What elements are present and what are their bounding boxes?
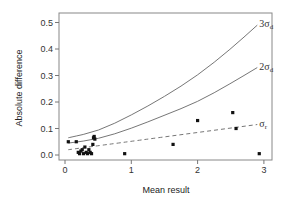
y-tick-label: 0.2 <box>40 97 53 107</box>
y-tick-label: 0.1 <box>40 124 53 134</box>
x-tick-label: 3 <box>261 165 266 175</box>
curve-label: σr <box>259 118 267 131</box>
data-point <box>123 152 126 155</box>
data-point <box>234 127 237 130</box>
data-point <box>91 143 94 146</box>
curve-3sigmad <box>68 25 257 138</box>
data-point <box>171 143 174 146</box>
plot-border <box>59 13 272 160</box>
x-tick-label: 0 <box>62 165 67 175</box>
data-point <box>196 119 199 122</box>
data-point <box>90 152 93 155</box>
y-tick-label: 0.0 <box>40 150 53 160</box>
y-tick-label: 0.5 <box>40 18 53 28</box>
x-axis: 0123 <box>62 160 266 175</box>
reference-curves: 3σd2σdσr <box>68 18 273 150</box>
data-point <box>93 138 96 141</box>
y-axis-title: Absolute difference <box>14 50 24 127</box>
y-tick-label: 0.4 <box>40 44 53 54</box>
data-point <box>258 152 261 155</box>
scatter-chart: 0.00.10.20.30.40.5 0123 3σd2σdσr Absolut… <box>0 0 288 200</box>
x-axis-title: Mean result <box>142 185 190 195</box>
data-point <box>75 140 78 143</box>
curve-sigmar <box>68 125 257 150</box>
data-point <box>67 140 70 143</box>
y-tick-label: 0.3 <box>40 71 53 81</box>
x-tick-label: 2 <box>195 165 200 175</box>
data-point <box>83 145 86 148</box>
data-point <box>231 111 234 114</box>
x-tick-label: 1 <box>129 165 134 175</box>
y-axis: 0.00.10.20.30.40.5 <box>40 18 59 161</box>
data-points <box>67 111 261 155</box>
curve-2sigmad <box>68 68 257 144</box>
plot-frame <box>59 13 272 160</box>
